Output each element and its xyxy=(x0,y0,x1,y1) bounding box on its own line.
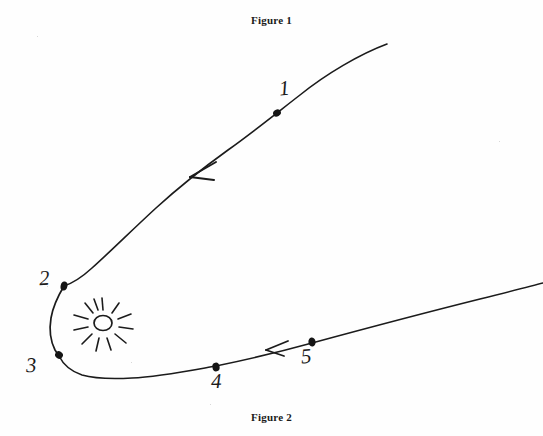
figure-caption-bottom: Figure 2 xyxy=(0,411,543,423)
incoming-direction-arrow-icon xyxy=(190,162,216,180)
point-label-5: 5 xyxy=(300,346,312,368)
position-markers xyxy=(54,108,317,372)
point-label-2: 2 xyxy=(38,268,50,290)
scan-speckle xyxy=(37,36,38,37)
point-label-3: 3 xyxy=(25,355,37,377)
sun-icon xyxy=(74,298,133,351)
scan-speckle xyxy=(210,404,211,405)
point-label-1: 1 xyxy=(278,78,291,100)
scan-speckle xyxy=(47,286,48,287)
scan-speckle xyxy=(499,141,500,142)
perihelion-arc-stroke xyxy=(50,286,64,356)
scan-speckle xyxy=(131,362,132,363)
trajectory-sketch xyxy=(0,0,543,436)
figure-canvas: Figure 1 xyxy=(0,0,543,436)
incoming-path-stroke xyxy=(64,44,387,286)
point-label-4: 4 xyxy=(211,371,222,392)
